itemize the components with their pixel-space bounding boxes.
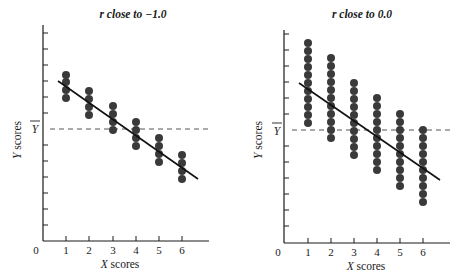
- x-tick-label: 3: [351, 246, 357, 258]
- figure: r close to −1.0 0 1 2: [0, 0, 459, 277]
- x-tick-label: 4: [133, 244, 139, 256]
- x-axis-label: X scores: [346, 260, 386, 272]
- x-tick-label: 3: [110, 244, 116, 256]
- x-tick-label: 5: [156, 244, 162, 256]
- chart-right: r close to 0.0 0 1 2 3: [252, 8, 452, 272]
- chart-left-title: r close to −1.0: [99, 8, 166, 20]
- x-label-rest: scores: [108, 258, 140, 270]
- x-tick-label: 4: [374, 246, 380, 258]
- x-tick-label: 1: [63, 244, 69, 256]
- x-label-rest: scores: [354, 260, 386, 272]
- y-mean-label: Y: [274, 125, 282, 137]
- origin-label: 0: [33, 244, 39, 256]
- x-ticks: [308, 238, 423, 243]
- y-ticks: [43, 33, 48, 225]
- origin-label: 0: [275, 246, 281, 258]
- regression-line: [58, 81, 198, 179]
- x-ticks: [66, 236, 182, 241]
- chart-left: r close to −1.0 0 1 2: [11, 8, 210, 270]
- data-points: [304, 39, 427, 206]
- y-label-rest: scores: [11, 120, 23, 152]
- regression-line: [299, 83, 440, 180]
- x-tick-label: 1: [305, 246, 311, 258]
- y-axis-label: Y scores: [252, 120, 264, 159]
- x-axis-label: X scores: [100, 258, 140, 270]
- x-tick-label: 6: [420, 246, 426, 258]
- y-axis-label: Y scores: [11, 120, 23, 159]
- y-mean-label: Y: [32, 123, 40, 135]
- x-tick-label: 2: [328, 246, 334, 258]
- chart-right-title: r close to 0.0: [332, 8, 392, 20]
- y-ticks: [284, 34, 289, 226]
- x-tick-label: 2: [86, 244, 92, 256]
- x-tick-label: 6: [179, 244, 185, 256]
- y-label-rest: scores: [252, 120, 264, 152]
- x-tick-label: 5: [397, 246, 403, 258]
